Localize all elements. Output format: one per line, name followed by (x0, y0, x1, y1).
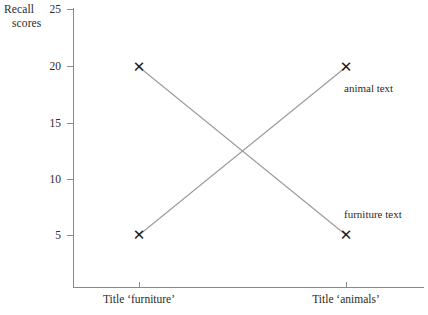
y-tick-label-10: 10 (33, 173, 61, 185)
y-axis-line (73, 8, 74, 288)
y-tick-mark-15 (67, 123, 74, 124)
series-line-animal-text (139, 67, 346, 235)
y-tick-mark-25 (67, 9, 74, 10)
y-tick-label-15: 15 (33, 117, 61, 129)
data-point-furniture-text-at-furniture: ✕ (131, 59, 147, 75)
y-tick-mark-5 (67, 235, 74, 236)
x-tick-mark-animals (346, 282, 347, 288)
x-tick-label-animals: Title ‘animals’ (266, 292, 426, 306)
data-point-animal-text-at-furniture: ✕ (131, 227, 147, 243)
recall-scores-line-chart: Recall scores 25 20 15 10 5 Title ‘furni… (0, 0, 428, 315)
y-tick-label-20: 20 (33, 60, 61, 72)
series-line-furniture-text (139, 67, 346, 235)
data-point-furniture-text-at-animals: ✕ (338, 227, 354, 243)
series-annotation-furniture-text: furniture text (344, 208, 402, 221)
x-axis-line (73, 287, 424, 288)
y-tick-mark-20 (67, 66, 74, 67)
series-annotation-animal-text: animal text (344, 82, 393, 95)
data-point-animal-text-at-animals: ✕ (338, 59, 354, 75)
y-axis-title-line-1: Recall (4, 3, 34, 15)
y-tick-mark-10 (67, 179, 74, 180)
x-tick-mark-furniture (139, 282, 140, 288)
x-tick-label-furniture: Title ‘furniture’ (59, 292, 219, 306)
y-tick-label-25: 25 (33, 3, 61, 15)
y-axis-title-line-2: scores (4, 16, 50, 30)
series-lines (0, 0, 428, 315)
y-tick-label-5: 5 (33, 229, 61, 241)
